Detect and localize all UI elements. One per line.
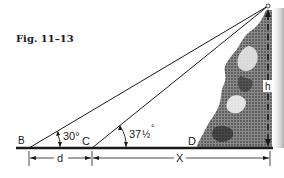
angle-c-label-degree: °: [151, 123, 155, 133]
angle-c-label-whole: 37: [129, 128, 141, 140]
angle-c-label-fraction: ½: [142, 129, 151, 140]
diagram-figure: Fig. 11–13: [0, 0, 284, 178]
point-c-label: C: [82, 135, 90, 147]
dimension-d-label: d: [57, 152, 63, 164]
dimension-d: d: [29, 151, 92, 166]
height-label: h: [265, 81, 271, 92]
point-d-label: D: [188, 135, 196, 147]
point-b-label: B: [18, 135, 25, 146]
apex-point: [266, 4, 270, 8]
angle-b-label: 30°: [63, 130, 80, 142]
diagram-canvas: h B C D 30° 37 ½ ° d: [0, 0, 284, 178]
dimension-x: X: [93, 151, 270, 166]
dimension-x-label: X: [176, 152, 184, 164]
